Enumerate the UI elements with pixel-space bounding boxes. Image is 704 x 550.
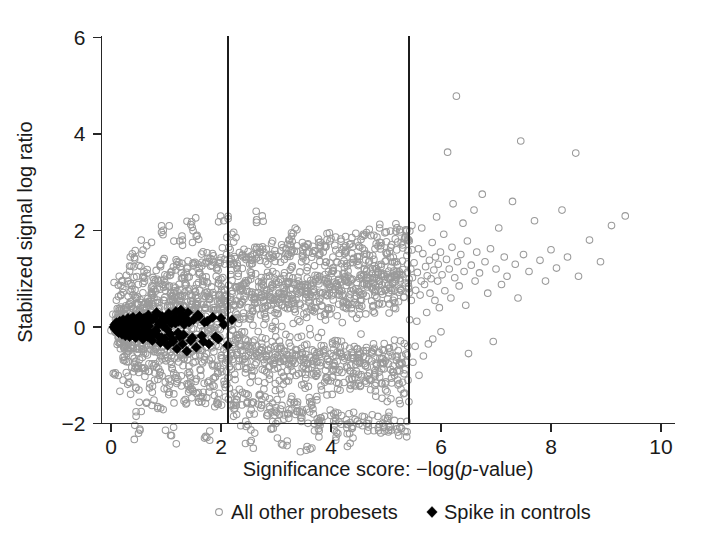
data-point-other xyxy=(412,343,419,350)
data-point-other xyxy=(247,379,254,386)
data-point-other xyxy=(138,263,145,270)
data-point-other xyxy=(274,435,281,442)
data-point-other xyxy=(261,367,268,374)
data-point-other xyxy=(306,325,313,332)
legend-label-all-other-probesets: All other probesets xyxy=(231,501,398,523)
data-point-other xyxy=(439,272,446,279)
data-point-other xyxy=(353,230,360,237)
x-tick-label: 10 xyxy=(649,435,672,458)
data-point-other xyxy=(434,278,441,285)
data-point-other xyxy=(127,391,134,398)
data-point-other xyxy=(454,258,461,265)
data-point-other xyxy=(278,391,285,398)
data-point-other xyxy=(192,378,199,385)
data-point-other xyxy=(468,262,475,269)
data-point-other xyxy=(537,257,544,264)
data-point-other xyxy=(261,386,268,393)
data-point-other xyxy=(297,318,304,325)
x-tick-label: 2 xyxy=(215,435,227,458)
data-point-other xyxy=(410,359,417,366)
data-point-other xyxy=(436,304,443,311)
data-point-other xyxy=(131,436,138,443)
y-axis-ticks: −20246 xyxy=(62,26,102,435)
data-point-other xyxy=(279,323,286,330)
data-point-other xyxy=(559,207,566,214)
data-point-other xyxy=(437,249,444,256)
data-point-other xyxy=(384,388,391,395)
data-point-other xyxy=(307,332,314,339)
data-point-other xyxy=(166,223,173,230)
x-tick-label: 0 xyxy=(105,435,117,458)
legend-marker-filled-diamond xyxy=(427,507,437,518)
data-point-other xyxy=(120,377,127,384)
data-point-other xyxy=(498,281,505,288)
data-point-other xyxy=(429,239,436,246)
data-point-other xyxy=(334,312,341,319)
data-point-other xyxy=(140,289,147,296)
data-point-other xyxy=(531,217,538,224)
data-point-other xyxy=(411,259,418,266)
data-point-other xyxy=(268,240,275,247)
data-point-other xyxy=(250,322,257,329)
data-point-other xyxy=(339,319,346,326)
data-point-other xyxy=(160,227,167,234)
data-point-other xyxy=(386,310,393,317)
data-point-other xyxy=(553,265,560,272)
data-point-other xyxy=(311,428,318,435)
data-point-other xyxy=(432,297,439,304)
legend-marker-open-circle xyxy=(216,509,223,516)
data-point-other xyxy=(370,340,377,347)
data-point-other xyxy=(274,396,281,403)
data-point-other xyxy=(575,273,582,280)
y-tick-label: 4 xyxy=(74,122,86,145)
data-point-other xyxy=(143,243,150,250)
data-point-other xyxy=(272,387,279,394)
data-point-other xyxy=(393,247,400,254)
y-tick-label: 6 xyxy=(74,26,86,49)
data-point-other xyxy=(318,329,325,336)
data-point-other xyxy=(458,251,465,258)
data-point-other xyxy=(429,336,436,343)
data-point-other xyxy=(420,353,427,360)
data-point-other xyxy=(476,270,483,277)
data-point-other xyxy=(219,245,226,252)
data-point-other xyxy=(501,254,508,261)
data-point-other xyxy=(350,409,357,416)
data-point-other xyxy=(295,317,302,324)
data-point-other xyxy=(422,263,429,270)
data-point-other xyxy=(253,359,260,366)
data-point-other xyxy=(414,269,421,276)
data-point-other xyxy=(371,310,378,317)
data-point-other xyxy=(290,320,297,327)
data-point-other xyxy=(189,239,196,246)
x-tick-label: 8 xyxy=(545,435,557,458)
data-point-other xyxy=(192,215,199,222)
data-point-other xyxy=(420,250,427,257)
plot-canvas: 0246810 −20246 Significance score: −log(… xyxy=(0,0,704,550)
data-point-other xyxy=(315,334,322,341)
y-tick-label: 2 xyxy=(74,219,86,242)
data-point-other xyxy=(401,294,408,301)
data-point-other xyxy=(136,399,143,406)
data-point-other xyxy=(484,290,491,297)
y-tick-label: −2 xyxy=(62,412,86,435)
data-point-other xyxy=(251,337,258,344)
data-point-other xyxy=(363,311,370,318)
data-point-other xyxy=(387,349,394,356)
data-point-other xyxy=(170,424,177,431)
data-point-other xyxy=(189,395,196,402)
data-point-other xyxy=(517,138,524,145)
data-point-other xyxy=(446,266,453,273)
data-point-other xyxy=(572,150,579,157)
data-point-other xyxy=(462,302,469,309)
data-point-other xyxy=(479,191,486,198)
data-point-other xyxy=(526,268,533,275)
data-point-other xyxy=(490,338,497,345)
data-point-other xyxy=(261,379,268,386)
data-point-other xyxy=(153,267,160,274)
data-point-other xyxy=(471,207,478,214)
data-point-other xyxy=(443,256,450,263)
data-point-other xyxy=(487,245,494,252)
data-point-other xyxy=(423,309,430,316)
data-point-other xyxy=(418,225,425,232)
